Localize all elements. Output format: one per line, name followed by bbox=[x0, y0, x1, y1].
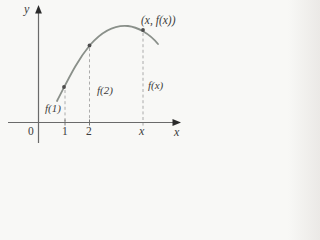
x-axis-label: x bbox=[173, 125, 180, 139]
f2-value-label: f(2) bbox=[97, 84, 113, 97]
point-coordinates-label: (x, f(x)) bbox=[141, 14, 176, 27]
y-axis-arrowhead-icon bbox=[35, 5, 42, 14]
origin-label: 0 bbox=[28, 125, 34, 137]
point-dot-x bbox=[141, 28, 145, 32]
fx-value-label: f(x) bbox=[148, 79, 164, 92]
function-graph-canvas: y x 0 1 2 x f(1) f(2) f(x) (x, f(x)) bbox=[0, 0, 196, 154]
f1-value-label: f(1) bbox=[45, 102, 61, 115]
function-graph-figure: y x 0 1 2 x f(1) f(2) f(x) (x, f(x)) bbox=[0, 0, 196, 154]
point-dot-2 bbox=[88, 44, 92, 48]
tick-label-1: 1 bbox=[62, 125, 68, 137]
tick-label-x: x bbox=[138, 124, 145, 138]
tick-label-2: 2 bbox=[86, 125, 92, 137]
y-axis-label: y bbox=[23, 2, 30, 16]
point-dot-1 bbox=[62, 85, 66, 89]
